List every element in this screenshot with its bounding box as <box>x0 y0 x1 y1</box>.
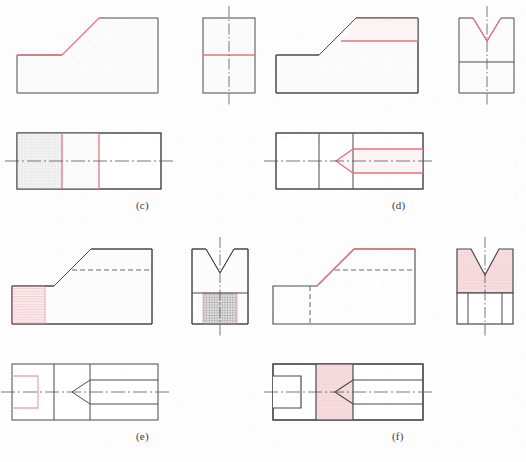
panel-e-label: (e) <box>136 430 149 442</box>
panel-f-front-view <box>273 249 415 324</box>
panel-c: (c) <box>0 0 263 231</box>
panel-f-side-view <box>457 237 513 336</box>
panel-f-top-view <box>264 364 435 420</box>
panel-c-top-view <box>5 133 174 189</box>
panel-e-top-view <box>1 364 170 420</box>
front-highlight-hatched-block <box>12 286 45 324</box>
panel-d-side-view <box>459 6 514 105</box>
panel-d-top-view <box>264 133 435 189</box>
panel-e-front-view <box>12 249 152 324</box>
panel-c-side-view <box>203 6 255 105</box>
panel-d: (d) <box>263 0 526 231</box>
drawing-sheet: (c) <box>0 0 526 462</box>
panel-c-front-view <box>17 18 158 93</box>
panel-f: (f) <box>263 231 526 462</box>
front-outline <box>273 249 415 324</box>
panel-c-label: (c) <box>136 199 149 211</box>
panel-f-label: (f) <box>392 430 404 442</box>
panel-e: (e) <box>0 231 263 462</box>
panel-d-label: (d) <box>392 199 405 211</box>
front-highlight-region <box>344 18 418 41</box>
panel-d-front-view <box>276 18 418 93</box>
side-outline <box>459 18 514 93</box>
panel-e-side-view <box>192 237 248 336</box>
